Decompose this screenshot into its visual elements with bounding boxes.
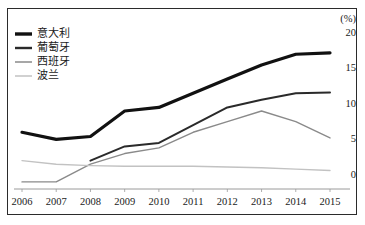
legend-swatch-spain <box>15 58 32 66</box>
x-axis-tick-label: 2015 <box>313 196 347 207</box>
x-axis-tick-label: 2011 <box>176 196 210 207</box>
y-axis-tick-label: 15 <box>330 63 356 73</box>
chart-legend: 意大利 葡萄牙 西班牙 波兰 <box>15 27 110 83</box>
chart-figure: (%) 意大利 葡萄牙 西班牙 波兰 20151050 200620072008… <box>0 0 365 225</box>
legend-label-italy: 意大利 <box>37 27 70 40</box>
legend-item-spain[interactable]: 西班牙 <box>15 55 110 68</box>
legend-swatch-italy <box>15 30 32 38</box>
x-axis-tick-label: 2013 <box>245 196 279 207</box>
x-axis-tick-label: 2008 <box>73 196 107 207</box>
legend-item-portugal[interactable]: 葡萄牙 <box>15 41 110 54</box>
x-axis-tick-label: 2009 <box>108 196 142 207</box>
legend-item-italy[interactable]: 意大利 <box>15 27 110 40</box>
y-axis-tick-label: 0 <box>330 170 356 180</box>
x-axis-tick-label: 2010 <box>142 196 176 207</box>
legend-item-poland[interactable]: 波兰 <box>15 69 110 82</box>
x-axis-tick-label: 2007 <box>39 196 73 207</box>
y-axis-tick-label: 5 <box>330 134 356 144</box>
y-axis-tick-label: 10 <box>330 99 356 109</box>
y-axis-unit-label: (%) <box>340 13 356 24</box>
x-axis-tick-label: 2014 <box>279 196 313 207</box>
legend-label-spain: 西班牙 <box>37 55 70 68</box>
y-axis-tick-label: 20 <box>330 28 356 38</box>
x-axis-tick-label: 2012 <box>210 196 244 207</box>
series-line-spain <box>22 111 330 182</box>
legend-swatch-poland <box>15 72 32 80</box>
axis-layer <box>14 189 350 192</box>
legend-label-portugal: 葡萄牙 <box>37 41 70 54</box>
x-axis-tick-label: 2006 <box>5 196 39 207</box>
series-line-poland <box>22 161 330 171</box>
legend-label-poland: 波兰 <box>37 69 59 82</box>
legend-swatch-portugal <box>15 44 32 52</box>
